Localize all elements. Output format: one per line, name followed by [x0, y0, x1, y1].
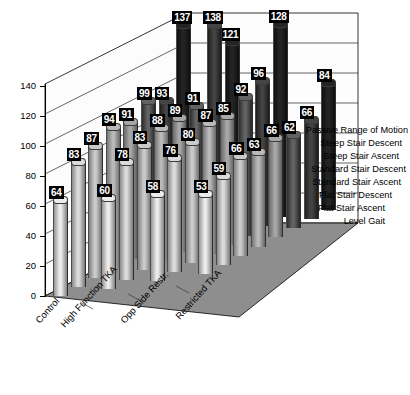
- bar-value-label: 84: [317, 69, 332, 82]
- bar-value-label: 89: [168, 104, 183, 117]
- category-label-restricted-tka: Restricted TKA: [173, 267, 223, 321]
- bar-value-label: 64: [49, 186, 64, 199]
- series-label-passive-range-of-motion: Passive Range of Motion: [140, 125, 408, 135]
- y-axis-line: [45, 84, 46, 297]
- y-tick-140: [40, 86, 45, 87]
- y-tick-label-140: 140: [8, 80, 36, 91]
- series-label-flat-stair-ascent: Flat Stair Ascent: [140, 203, 385, 213]
- series-label-steep-stair-descent: Steep Stair Descent: [140, 138, 402, 148]
- bar-value-label: 66: [300, 106, 315, 119]
- bar-value-label: 78: [115, 148, 130, 161]
- y-tick-120: [40, 116, 45, 117]
- bar-value-label: 121: [221, 28, 241, 41]
- y-tick-80: [40, 176, 45, 177]
- bar-value-label: 96: [251, 67, 266, 80]
- bar-value-label: 87: [84, 132, 99, 145]
- y-tick-label-40: 40: [8, 230, 36, 241]
- y-tick-label-100: 100: [8, 140, 36, 151]
- y-tick-100: [40, 146, 45, 147]
- bar-value-label: 93: [155, 87, 170, 100]
- series-label-level-gait: Level Gait: [140, 216, 385, 226]
- series-label-steep-stair-ascent: Steep Stair Ascent: [140, 151, 399, 161]
- chart-3d-bar: 0 20 40 60 80 100 120 140 84128121137669…: [0, 0, 410, 395]
- bar-value-label: 87: [198, 109, 213, 122]
- bar-flat-stair-ascent-high-function-tka: [119, 161, 134, 280]
- bar-flat-stair-ascent-control: [71, 161, 86, 287]
- bar-value-label: 60: [97, 184, 112, 197]
- y-tick-0: [40, 296, 45, 297]
- bar-value-label: 99: [137, 87, 152, 100]
- bar-value-label: 137: [172, 11, 192, 24]
- y-tick-label-80: 80: [8, 170, 36, 181]
- series-label-standard-stair-descent: Standard Stair Descent: [140, 164, 406, 174]
- bar-value-label: 94: [102, 113, 117, 126]
- bar-value-label: 92: [234, 83, 249, 96]
- series-label-standard-stair-ascent: Standard Stair Ascent: [140, 177, 401, 187]
- y-tick-label-60: 60: [8, 200, 36, 211]
- bar-level-gait-control: [53, 199, 68, 296]
- bar-value-label: 138: [203, 11, 223, 24]
- y-tick-label-120: 120: [8, 110, 36, 121]
- bar-value-label: 128: [269, 10, 289, 23]
- y-tick-label-20: 20: [8, 260, 36, 271]
- series-label-flat-stair-descent: Flat Stair Descent: [140, 190, 392, 200]
- bar-value-label: 83: [67, 148, 82, 161]
- bar-value-label: 85: [216, 102, 231, 115]
- bar-value-label: 91: [185, 92, 200, 105]
- y-tick-label-0: 0: [8, 290, 36, 301]
- y-tick-20: [40, 266, 45, 267]
- y-tick-40: [40, 236, 45, 237]
- y-tick-60: [40, 206, 45, 207]
- bar-value-label: 91: [119, 108, 134, 121]
